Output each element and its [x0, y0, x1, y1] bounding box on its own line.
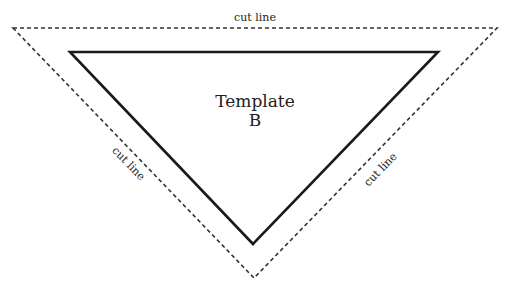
- left-cut-line-label: cut line: [109, 144, 147, 183]
- template-letter: B: [249, 110, 262, 130]
- inner-template-triangle: [70, 52, 438, 244]
- right-cut-line-label: cut line: [361, 150, 399, 189]
- top-cut-line-label: cut line: [234, 11, 276, 24]
- template-diagram: cut line cut line cut line Template B: [0, 0, 514, 303]
- template-title: Template: [215, 91, 295, 111]
